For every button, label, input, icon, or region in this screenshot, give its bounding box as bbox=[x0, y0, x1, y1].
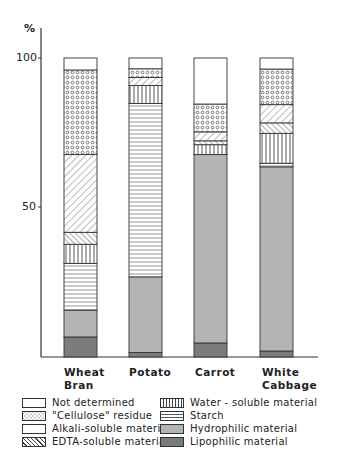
bar-segment bbox=[194, 141, 227, 145]
category-label-wheat-bran: Wheat Bran bbox=[64, 366, 105, 392]
bar-segment bbox=[129, 69, 162, 78]
bar-segment bbox=[64, 155, 97, 233]
bar-segment bbox=[129, 86, 162, 104]
bar-segment bbox=[260, 163, 293, 167]
swatch-blank-icon bbox=[22, 398, 46, 408]
bar-segment bbox=[64, 263, 97, 310]
bar-segment bbox=[194, 343, 227, 357]
bar-segment bbox=[260, 105, 293, 123]
category-label-carrot: Carrot bbox=[195, 366, 235, 379]
y-tick-label-100: 100 bbox=[16, 51, 37, 64]
bar-segment bbox=[64, 58, 97, 70]
bar-segment bbox=[64, 232, 97, 244]
bar-segment bbox=[194, 58, 227, 104]
bar-segment bbox=[194, 132, 227, 141]
bar-segment bbox=[129, 77, 162, 85]
swatch-dots-icon bbox=[22, 411, 46, 421]
bar-segment bbox=[64, 70, 97, 155]
bar-segment bbox=[260, 351, 293, 357]
bar-segment bbox=[194, 145, 227, 155]
bar-segment bbox=[64, 337, 97, 357]
stacked-bar-chart bbox=[0, 0, 337, 400]
y-axis-unit-label: % bbox=[24, 22, 35, 35]
bar-segment bbox=[194, 155, 227, 343]
bar-segment bbox=[260, 133, 293, 163]
bar-segment bbox=[260, 69, 293, 105]
bar-segment bbox=[260, 167, 293, 351]
swatch-light-gray-icon bbox=[160, 424, 184, 434]
bar-segment bbox=[129, 277, 162, 353]
swatch-horizontal-lines-icon bbox=[160, 411, 184, 421]
swatch-back-diagonal-icon bbox=[22, 437, 46, 447]
swatch-dark-gray-icon bbox=[160, 437, 184, 447]
swatch-blank-icon bbox=[22, 424, 46, 434]
bar-segment bbox=[129, 103, 162, 276]
bar-segment bbox=[64, 244, 97, 263]
y-tick-label-50: 50 bbox=[22, 200, 36, 213]
bar-segment bbox=[260, 58, 293, 69]
bars-group bbox=[64, 58, 293, 357]
category-label-white-cabbage: White Cabbage bbox=[262, 366, 317, 392]
category-label-potato: Potato bbox=[129, 366, 171, 379]
bar-segment bbox=[260, 123, 293, 133]
swatch-vertical-lines-icon bbox=[160, 398, 184, 408]
bar-segment bbox=[64, 310, 97, 337]
bar-segment bbox=[129, 58, 162, 69]
bar-segment bbox=[194, 104, 227, 132]
bar-segment bbox=[129, 353, 162, 357]
